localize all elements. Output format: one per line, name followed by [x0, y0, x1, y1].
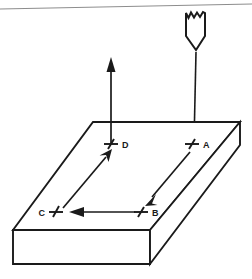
- scan-artifact-line: [0, 4, 252, 9]
- block-front-face: [13, 230, 150, 264]
- point-label-c: C: [39, 208, 46, 218]
- point-label-b: B: [152, 208, 159, 218]
- point-label-d: D: [122, 140, 129, 150]
- figure-page: A B C D: [0, 0, 252, 279]
- technical-diagram: A B C D: [0, 0, 252, 279]
- arrowhead-exit-up: [107, 57, 116, 72]
- point-label-a: A: [203, 140, 210, 150]
- tool-body: [186, 12, 205, 50]
- cutting-tool: [186, 12, 205, 50]
